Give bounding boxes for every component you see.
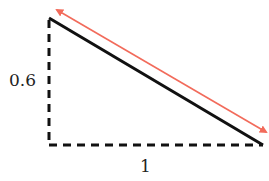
triangle-diagram — [0, 0, 269, 181]
horizontal-leg-label: 1 — [140, 156, 151, 176]
vertical-leg-label: 0.6 — [9, 70, 36, 90]
hypotenuse — [49, 18, 263, 145]
hypotenuse-arrow — [57, 10, 266, 132]
